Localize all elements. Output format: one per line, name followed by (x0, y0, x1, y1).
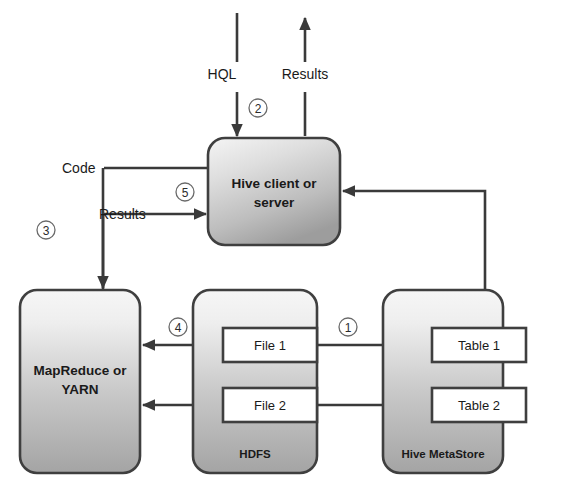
inner-box-table-1[interactable]: Table 1 (432, 328, 526, 362)
box-mapreduce-label-line2: YARN (61, 382, 98, 397)
flow-label-results-left: Results (99, 206, 146, 222)
box-mapreduce-label-line1: MapReduce or (33, 363, 127, 378)
inner-box-table-1-label: Table 1 (458, 338, 500, 353)
inner-box-table-2[interactable]: Table 2 (432, 388, 526, 422)
step-number-5: 5 (176, 183, 194, 201)
inner-box-file-1[interactable]: File 1 (223, 328, 317, 362)
step-number-3-text: 3 (43, 224, 50, 238)
diagram-canvas: Hive client or server MapReduce or YARN … (0, 0, 573, 497)
inner-box-file-2-label: File 2 (254, 398, 286, 413)
step-number-1: 1 (339, 318, 357, 336)
box-hive-client[interactable]: Hive client or server (208, 138, 340, 245)
step-number-3: 3 (37, 221, 55, 239)
step-number-1-text: 1 (345, 321, 352, 335)
box-hive-client-label-line1: Hive client or (232, 176, 318, 191)
box-mapreduce[interactable]: MapReduce or YARN (20, 290, 140, 473)
flow-label-results-top: Results (282, 66, 329, 82)
inner-box-file-2[interactable]: File 2 (223, 388, 317, 422)
step-number-5-text: 5 (182, 186, 189, 200)
step-number-2-text: 2 (255, 102, 262, 116)
step-number-4: 4 (169, 318, 187, 336)
connector-metastore-to-client (343, 191, 485, 290)
box-metastore[interactable]: Hive MetaStore (383, 290, 503, 473)
inner-box-table-2-label: Table 2 (458, 398, 500, 413)
hive-architecture-diagram: Hive client or server MapReduce or YARN … (0, 0, 573, 497)
flow-label-hql: HQL (208, 66, 237, 82)
box-metastore-label: Hive MetaStore (401, 448, 484, 460)
box-hdfs-label: HDFS (239, 448, 271, 460)
box-hdfs[interactable]: HDFS (193, 290, 317, 473)
flow-label-code: Code (62, 160, 96, 176)
step-number-4-text: 4 (175, 321, 182, 335)
step-number-2: 2 (249, 99, 267, 117)
inner-box-file-1-label: File 1 (254, 338, 286, 353)
connector-results-in-arrow (103, 214, 206, 290)
box-hive-client-label-line2: server (254, 195, 295, 210)
